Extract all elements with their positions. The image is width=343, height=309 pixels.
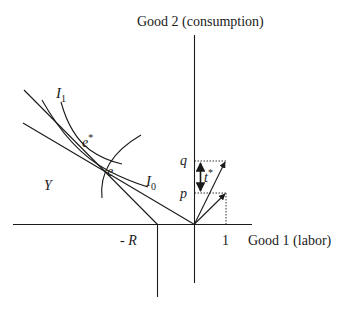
x-tick-one: 1 [222, 233, 229, 248]
p-label: p [179, 186, 187, 201]
price-vector-p [195, 194, 226, 224]
i0-label: I0 [145, 173, 156, 192]
budget-line-steep [24, 90, 158, 225]
tax-sup: * [208, 167, 213, 178]
q-label: q [180, 153, 187, 168]
i0-sub: 0 [151, 181, 156, 192]
x-axis-label: Good 1 (labor) [248, 233, 332, 249]
e-label: e [107, 164, 113, 179]
neg-r-prefix: - [120, 233, 128, 248]
x-tick-neg-r: - R [120, 233, 137, 248]
e-star-sup: * [88, 132, 93, 143]
i1-sub: 1 [61, 93, 66, 104]
economics-diagram: Good 2 (consumption) Good 1 (labor) 1 - … [0, 0, 343, 309]
i1-label: I1 [55, 85, 66, 104]
production-set-label: Y [44, 178, 54, 193]
e-star-label: e* [82, 132, 93, 150]
diagram-canvas: Good 2 (consumption) Good 1 (labor) 1 - … [0, 0, 343, 309]
tax-label: t* [204, 167, 213, 185]
neg-r-symbol: R [127, 233, 137, 248]
y-axis-label: Good 2 (consumption) [137, 14, 264, 30]
